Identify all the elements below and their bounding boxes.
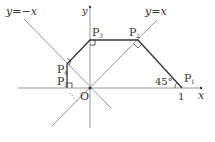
svg-text:5: 5	[64, 81, 68, 88]
tick-1-label: 1	[178, 91, 184, 102]
y-axis-arrow-icon	[89, 6, 91, 8]
svg-text:1: 1	[191, 78, 195, 85]
y-eq-x-label: y=x	[144, 5, 167, 18]
x-axis-label: x	[198, 89, 205, 102]
svg-text:4: 4	[64, 69, 68, 76]
point-label-p2: P 2	[129, 26, 140, 39]
diagram-canvas: y=−x y=x y x O 1 45° P 1 P 2 P 3 P 4 P 5	[0, 0, 215, 142]
angle-label: 45°	[155, 76, 173, 87]
angle-arc-45	[175, 83, 177, 89]
point-label-p3: P 3	[92, 26, 103, 39]
origin-label: O	[80, 90, 89, 103]
y-axis-label: y	[81, 5, 88, 16]
svg-text:2: 2	[136, 32, 140, 39]
svg-text:3: 3	[99, 32, 103, 39]
right-angle-p2	[134, 44, 142, 48]
point-label-p1: P 1	[184, 72, 195, 85]
y-eq-neg-x-label: y=−x	[5, 5, 38, 18]
right-angle-p3	[90, 40, 95, 45]
dotted-segment	[70, 93, 77, 101]
